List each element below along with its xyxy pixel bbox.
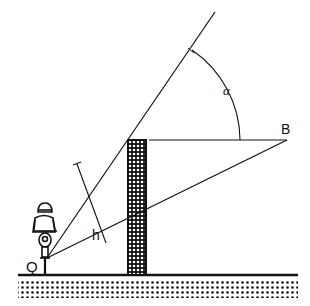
h-perpendicular (73, 162, 106, 243)
label-point-q: Q (26, 259, 38, 274)
diagram-canvas: α B h Q (0, 0, 310, 306)
label-alpha: α (223, 84, 230, 97)
angle-arc (192, 50, 240, 140)
lower-sight-line (47, 140, 287, 258)
ground (18, 275, 298, 298)
diagram-svg (0, 0, 310, 306)
label-h: h (92, 228, 100, 242)
label-point-b: B (281, 122, 290, 136)
wall (128, 140, 146, 275)
